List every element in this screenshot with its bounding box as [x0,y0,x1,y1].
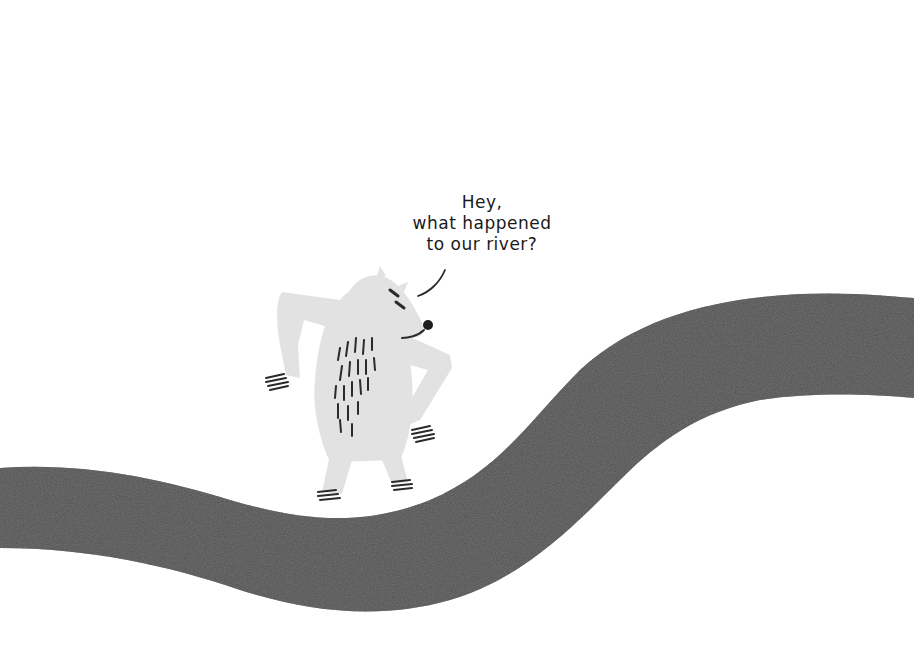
dry-river [0,293,914,611]
river-texture [0,293,914,611]
speech-line: Hey, [392,192,572,213]
speech-line: what happened [392,213,572,234]
bear-left-leg [322,455,352,494]
illustration-scene: Hey, what happened to our river? [0,0,914,657]
bear-nose [423,320,433,330]
polar-bear [277,266,452,494]
speech-text: Hey, what happened to our river? [392,192,572,255]
scene-svg [0,0,914,657]
bear-right-leg [380,452,408,484]
speech-tail [418,270,445,296]
speech-line: to our river? [392,234,572,255]
bear-ear-left [376,266,386,278]
